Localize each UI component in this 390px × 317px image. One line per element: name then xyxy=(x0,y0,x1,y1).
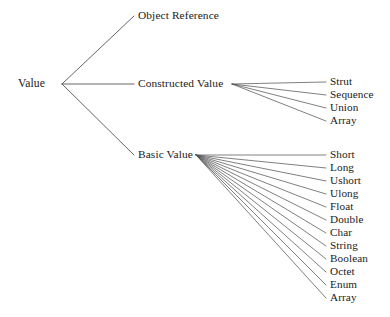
edge-basic-to-array-11 xyxy=(196,155,326,298)
edge-constructed-to-strut-0 xyxy=(232,82,326,84)
edge-basic-to-float-4 xyxy=(196,155,326,207)
edge-value-to-object-reference xyxy=(62,16,134,84)
node-char: Char xyxy=(330,227,352,238)
edge-basic-to-char-6 xyxy=(196,155,326,233)
node-array-constructed: Array xyxy=(330,115,357,126)
node-constructed-value: Constructed Value xyxy=(138,78,223,89)
edge-basic-to-octet-9 xyxy=(196,155,326,272)
node-octet: Octet xyxy=(330,266,355,277)
node-short: Short xyxy=(330,149,355,160)
node-value: Value xyxy=(18,78,45,89)
edge-basic-to-string-7 xyxy=(196,155,326,246)
edge-constructed-to-union-2 xyxy=(232,84,326,108)
node-boolean: Boolean xyxy=(330,253,368,264)
node-sequence: Sequence xyxy=(330,89,374,100)
node-object-reference: Object Reference xyxy=(138,10,219,21)
edge-basic-to-boolean-8 xyxy=(196,155,326,259)
node-enum: Enum xyxy=(330,279,357,290)
edge-basic-to-long-1 xyxy=(196,155,326,168)
node-ulong: Ulong xyxy=(330,188,358,199)
node-double: Double xyxy=(330,214,364,225)
node-union: Union xyxy=(330,102,358,113)
edge-value-to-basic-value xyxy=(62,84,134,155)
node-ushort: Ushort xyxy=(330,175,361,186)
edge-basic-to-double-5 xyxy=(196,155,326,220)
node-basic-value: Basic Value xyxy=(138,149,193,160)
value-hierarchy-diagram: Value Object Reference Constructed Value… xyxy=(0,0,390,317)
edge-basic-to-ushort-2 xyxy=(196,155,326,181)
node-strut: Strut xyxy=(330,76,352,87)
node-string: String xyxy=(330,240,358,251)
node-float: Float xyxy=(330,201,354,212)
node-long: Long xyxy=(330,162,354,173)
node-array-basic: Array xyxy=(330,292,357,303)
